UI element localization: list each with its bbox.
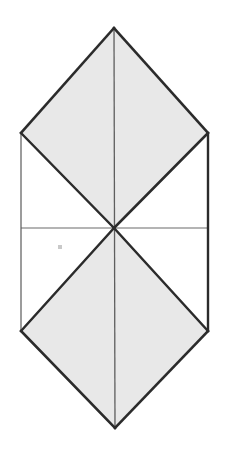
figure-canvas <box>0 0 226 454</box>
scan-speck-artifact <box>58 245 62 249</box>
geometric-figure <box>0 0 226 454</box>
